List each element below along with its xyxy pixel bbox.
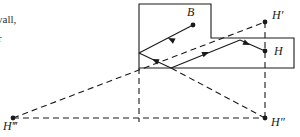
point-B-label: B [187,5,195,19]
point-H-dot [263,49,268,54]
ray-corner-to-H [240,40,265,51]
ray-corner-to-H-arrowhead-1 [242,40,251,48]
point-H-label: H [273,44,284,58]
room-outline [139,4,294,68]
point-Hp-dot [263,20,268,25]
ray-B-to-leftwall [139,25,193,53]
virtual-Hpp-to-leftwall [171,68,265,118]
point-Hpp-label: H″ [270,115,286,129]
point-Hppp-label: H‴ [2,119,18,133]
margin-text-line-1: vall, [0,14,16,25]
labeled-points-group: BHH′H″H‴ [2,5,286,133]
margin-text-line-2: r [0,33,2,44]
point-B-dot [191,23,196,28]
point-Hp-label: H′ [271,8,284,22]
ray-bottom-to-corner-arrowhead-1 [201,49,210,57]
point-Hpp-dot [263,116,268,121]
figure-container: vall, r BHH′H″H‴ [0,0,300,137]
reflection-diagram: BHH′H″H‴ [0,0,300,137]
